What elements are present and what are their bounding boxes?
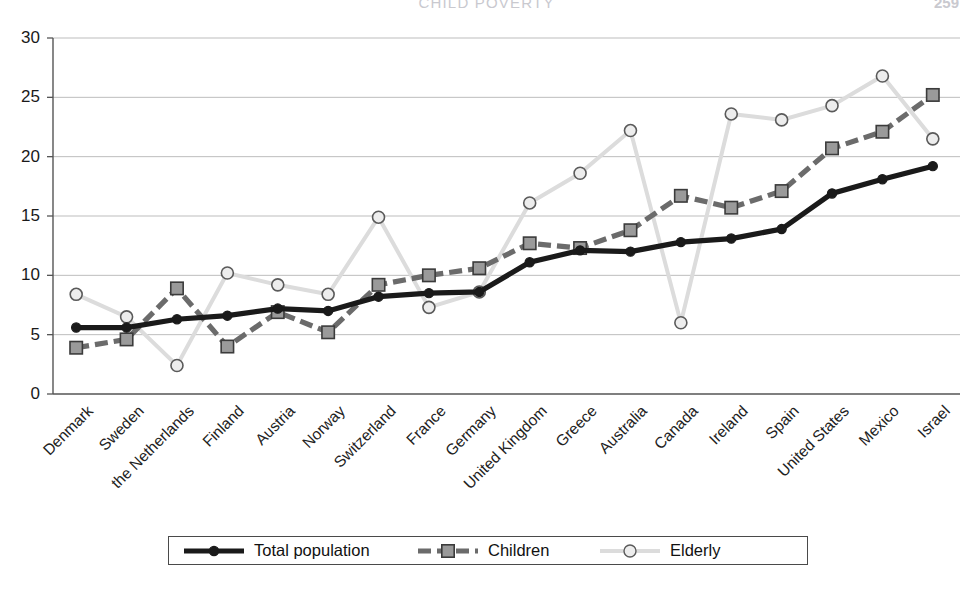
legend-label: Children: [488, 541, 549, 560]
data-point: [575, 246, 584, 255]
data-point: [72, 323, 81, 332]
data-point: [70, 288, 82, 300]
legend-item-elderly[interactable]: Elderly: [599, 537, 720, 564]
data-point: [928, 162, 937, 171]
data-point: [122, 323, 131, 332]
y-axis-tick-label: 30: [4, 29, 40, 46]
y-axis-tick-label: 20: [4, 148, 40, 165]
data-point: [423, 269, 435, 281]
data-point: [776, 114, 788, 126]
data-point: [221, 267, 233, 279]
data-point: [322, 326, 334, 338]
data-point: [473, 262, 485, 274]
legend-item-children[interactable]: Children: [417, 537, 549, 564]
legend-marker-icon: [599, 541, 661, 561]
data-point: [373, 211, 385, 223]
data-point: [777, 224, 786, 233]
data-point: [475, 287, 484, 296]
data-point: [826, 100, 838, 112]
data-point: [624, 224, 636, 236]
data-point: [70, 342, 82, 354]
data-point: [626, 247, 635, 256]
data-point: [725, 108, 737, 120]
data-point: [727, 234, 736, 243]
data-point: [927, 133, 939, 145]
data-point: [775, 185, 787, 197]
legend-item-total-population[interactable]: Total population: [183, 537, 370, 564]
data-point: [121, 311, 133, 323]
line-chart: 051015202530 DenmarkSwedenthe Netherland…: [0, 0, 973, 593]
data-point: [827, 189, 836, 198]
data-point: [524, 197, 536, 209]
data-point: [876, 126, 888, 138]
y-axis-tick-label: 0: [4, 385, 40, 402]
data-point: [374, 292, 383, 301]
data-point: [322, 288, 334, 300]
legend-label: Elderly: [670, 541, 720, 560]
data-point: [878, 175, 887, 184]
data-point: [676, 238, 685, 247]
data-point: [423, 301, 435, 313]
data-point: [272, 279, 284, 291]
data-point: [120, 333, 132, 345]
legend-label: Total population: [254, 541, 370, 560]
data-point: [171, 282, 183, 294]
series-line: [76, 76, 933, 366]
y-axis-tick-label: 15: [4, 207, 40, 224]
y-axis-tick-label: 5: [4, 326, 40, 343]
data-point: [172, 315, 181, 324]
data-point: [624, 125, 636, 137]
data-point: [675, 317, 687, 329]
data-point: [574, 167, 586, 179]
data-point: [826, 142, 838, 154]
legend-marker-icon: [183, 541, 245, 561]
series-elderly: [70, 70, 939, 372]
data-point: [372, 279, 384, 291]
data-point: [725, 201, 737, 213]
y-axis-tick-label: 10: [4, 266, 40, 283]
data-point: [927, 89, 939, 101]
data-point: [273, 304, 282, 313]
data-point: [223, 311, 232, 320]
data-point: [876, 70, 888, 82]
chart-legend: Total populationChildrenElderly: [168, 536, 808, 565]
data-point: [525, 258, 534, 267]
series-line: [76, 95, 933, 348]
data-point: [675, 190, 687, 202]
legend-marker-icon: [417, 541, 479, 561]
data-point: [523, 237, 535, 249]
data-point: [424, 289, 433, 298]
data-point: [171, 360, 183, 372]
data-point: [324, 306, 333, 315]
data-point: [221, 340, 233, 352]
series-children: [70, 89, 939, 354]
y-axis-tick-label: 25: [4, 88, 40, 105]
